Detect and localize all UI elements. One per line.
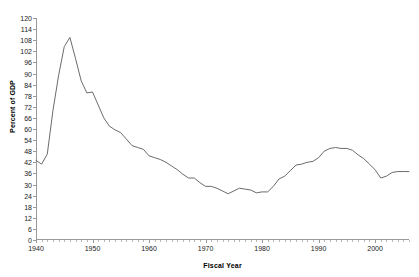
- x-tick-mark-minor: [223, 240, 224, 242]
- x-tick-mark-minor: [234, 240, 235, 242]
- x-tick-mark-minor: [285, 240, 286, 242]
- x-tick-mark-minor: [251, 240, 252, 242]
- x-tick-mark-minor: [121, 240, 122, 242]
- x-tick-mark-minor: [166, 240, 167, 242]
- x-tick-mark-minor: [211, 240, 212, 242]
- x-tick-label: 1940: [28, 245, 44, 252]
- x-tick-mark-minor: [369, 240, 370, 242]
- y-tick-label: 42: [24, 159, 32, 166]
- x-tick-mark-minor: [109, 240, 110, 242]
- x-tick-mark-minor: [42, 240, 43, 242]
- x-tick-mark-minor: [183, 240, 184, 242]
- x-tick-mark-minor: [172, 240, 173, 242]
- y-tick-label: 12: [24, 214, 32, 221]
- x-tick-mark-minor: [268, 240, 269, 242]
- x-tick-mark-minor: [81, 240, 82, 242]
- x-tick-label: 1980: [254, 245, 270, 252]
- y-tick-label: 54: [24, 137, 32, 144]
- x-tick-mark-minor: [155, 240, 156, 242]
- x-tick-mark-minor: [392, 240, 393, 242]
- x-tick-label: 1990: [311, 245, 327, 252]
- x-tick-mark-minor: [70, 240, 71, 242]
- y-tick-label: 114: [21, 26, 32, 33]
- y-tick-label: 30: [24, 181, 32, 188]
- y-tick-label: 36: [24, 170, 32, 177]
- y-tick-label: 60: [24, 126, 32, 133]
- y-axis-label: Percent of GDP: [9, 62, 16, 152]
- x-tick-mark-minor: [239, 240, 240, 242]
- x-tick-mark-minor: [98, 240, 99, 242]
- x-tick-mark-minor: [302, 240, 303, 242]
- x-tick-mark-minor: [64, 240, 65, 242]
- x-tick-mark-minor: [138, 240, 139, 242]
- x-tick-mark-minor: [217, 240, 218, 242]
- x-tick-mark-minor: [279, 240, 280, 242]
- x-tick-mark-minor: [358, 240, 359, 242]
- x-tick-mark-minor: [398, 240, 399, 242]
- x-tick-mark-minor: [143, 240, 144, 242]
- x-tick-mark-minor: [273, 240, 274, 242]
- plot-area: 0612182430364248546066727884909610210811…: [36, 18, 409, 240]
- y-tick-label: 96: [24, 59, 32, 66]
- x-tick-mark-minor: [189, 240, 190, 242]
- x-tick-mark-minor: [313, 240, 314, 242]
- x-tick-mark-minor: [409, 240, 410, 242]
- x-tick-mark-major: [319, 240, 320, 243]
- x-tick-label: 1970: [198, 245, 214, 252]
- y-tick-label: 84: [24, 81, 32, 88]
- x-tick-mark-minor: [290, 240, 291, 242]
- x-tick-mark-minor: [381, 240, 382, 242]
- y-tick-label: 66: [24, 114, 32, 121]
- x-tick-mark-minor: [59, 240, 60, 242]
- x-tick-mark-minor: [200, 240, 201, 242]
- data-series-line: [36, 18, 409, 240]
- x-tick-mark-minor: [307, 240, 308, 242]
- x-tick-mark-minor: [245, 240, 246, 242]
- y-tick-label: 72: [24, 103, 32, 110]
- x-tick-mark-major: [262, 240, 263, 243]
- x-tick-mark-minor: [177, 240, 178, 242]
- x-tick-mark-minor: [104, 240, 105, 242]
- x-tick-label: 1960: [141, 245, 157, 252]
- x-tick-mark-minor: [330, 240, 331, 242]
- x-tick-mark-minor: [76, 240, 77, 242]
- x-tick-mark-minor: [296, 240, 297, 242]
- x-tick-mark-minor: [324, 240, 325, 242]
- x-tick-mark-minor: [53, 240, 54, 242]
- x-tick-label: 2000: [367, 245, 383, 252]
- x-tick-mark-major: [375, 240, 376, 243]
- x-tick-mark-major: [36, 240, 37, 243]
- x-tick-mark-major: [206, 240, 207, 243]
- x-tick-mark-minor: [126, 240, 127, 242]
- x-tick-mark-minor: [386, 240, 387, 242]
- x-tick-mark-minor: [194, 240, 195, 242]
- y-tick-label: 24: [24, 192, 32, 199]
- x-tick-label: 1950: [85, 245, 101, 252]
- y-tick-label: 78: [24, 92, 32, 99]
- cropped-title-artifact: [22, 0, 222, 6]
- x-tick-mark-minor: [347, 240, 348, 242]
- y-tick-label: 90: [24, 70, 32, 77]
- y-tick-label: 102: [20, 48, 32, 55]
- x-axis-label: Fiscal Year: [36, 262, 409, 269]
- x-tick-mark-minor: [403, 240, 404, 242]
- y-tick-label: 48: [24, 148, 32, 155]
- y-tick-label: 120: [20, 15, 32, 22]
- y-tick-label: 108: [20, 37, 32, 44]
- y-tick-label: 6: [28, 225, 32, 232]
- x-tick-mark-minor: [115, 240, 116, 242]
- x-tick-mark-major: [149, 240, 150, 243]
- x-tick-mark-minor: [132, 240, 133, 242]
- x-tick-mark-major: [93, 240, 94, 243]
- y-tick-label: 18: [24, 203, 32, 210]
- x-tick-mark-minor: [341, 240, 342, 242]
- y-tick-label: 0: [28, 237, 32, 244]
- x-tick-mark-minor: [228, 240, 229, 242]
- x-tick-mark-minor: [160, 240, 161, 242]
- x-tick-mark-minor: [87, 240, 88, 242]
- chart-container: Percent of GDP 0612182430364248546066727…: [0, 0, 419, 277]
- x-tick-mark-minor: [336, 240, 337, 242]
- x-tick-mark-minor: [47, 240, 48, 242]
- x-tick-mark-minor: [256, 240, 257, 242]
- x-tick-mark-minor: [352, 240, 353, 242]
